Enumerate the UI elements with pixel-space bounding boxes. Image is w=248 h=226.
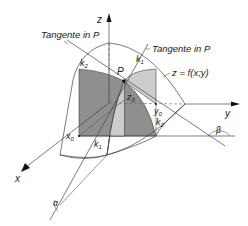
k1-projection-line xyxy=(60,155,107,205)
y-axis-label: y xyxy=(224,108,231,119)
z-axis-label: z xyxy=(96,14,102,25)
k2-bottom-label: k2 xyxy=(156,117,165,128)
tangent-right-label: Tangente in P xyxy=(152,43,211,54)
y-axis-arrow-icon xyxy=(231,102,240,107)
point-p-label: P xyxy=(117,66,124,77)
surface-equation-label: z = f(x;y) xyxy=(171,67,209,78)
k2-top-label: k2 xyxy=(80,58,89,69)
k1-bottom-label: k1 xyxy=(94,139,102,150)
beta-label: β xyxy=(215,125,221,135)
x-axis-label: x xyxy=(14,173,21,184)
point-y0 xyxy=(155,103,157,105)
tangent-left-leader xyxy=(64,41,68,44)
tangent-left-label: Tangente in P xyxy=(41,29,100,40)
point-p xyxy=(122,79,126,83)
diagram-canvas: z y x Tangente in P Tangente in P z = f(… xyxy=(0,0,248,226)
alpha-label: α xyxy=(53,198,59,208)
point-x0 xyxy=(78,135,80,137)
x-axis-arrow-icon xyxy=(21,163,30,172)
y0-label: y0 xyxy=(153,106,163,117)
x0-label: x0 xyxy=(65,131,75,142)
z-axis-arrow-icon xyxy=(107,13,112,22)
